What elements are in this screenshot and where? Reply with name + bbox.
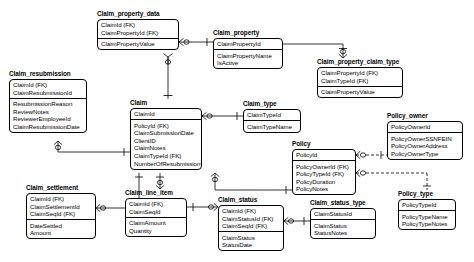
entity-box-claim_line_item: ClaimId (FK)ClaimSeqIdClaimAmountQuantit… <box>125 198 187 237</box>
field-key: PolicyOwnerId <box>391 123 459 131</box>
entity-title-claim_settlement: Claim_settlement <box>26 184 96 192</box>
entity-claim[interactable]: ClaimClaimIdPolicyId (FK)ClaimSubmission… <box>130 99 202 170</box>
key-fields-claim_line_item: ClaimId (FK)ClaimSeqId <box>126 199 186 218</box>
field-attribute: ClaimStatus <box>314 222 372 230</box>
entity-claim_settlement[interactable]: Claim_settlementClaimId (FK)ClaimSettlem… <box>26 184 96 239</box>
field-key: ClaimId (FK) <box>30 195 92 203</box>
entity-title-claim_property_data: Claim_property_data <box>97 10 179 18</box>
entity-claim_status_type[interactable]: Claim_status_typeClaimStatusIdClaimStatu… <box>310 199 376 239</box>
entity-policy[interactable]: PolicyPolicyIdPolicyOwnerId (FK)PolicyTy… <box>292 140 356 195</box>
field-attribute: ResubmissionReason <box>13 100 83 108</box>
entity-claim_property[interactable]: Claim_propertyClaimPropertyIdClaimProper… <box>213 29 283 69</box>
field-attribute: ClaimStatus <box>222 234 280 242</box>
attribute-fields-claim_status: ClaimStatusStatusDate <box>219 232 283 250</box>
attribute-fields-claim_property: ClaimPropertyNameIsActive <box>214 50 282 68</box>
field-key: ClaimResubmissionId <box>13 89 83 97</box>
attribute-fields-claim: PolicyId (FK)ClaimSubmissionDateClientID… <box>131 120 201 169</box>
field-attribute: ClaimResubmissionDate <box>13 123 83 131</box>
entity-claim_status[interactable]: Claim_statusClaimId (FK)ClaimStatusId (F… <box>218 196 284 251</box>
attribute-fields-claim_line_item: ClaimAmountQuantity <box>126 218 186 236</box>
field-key: PolicyId <box>296 151 352 159</box>
field-attribute: PolicyDuration <box>296 178 352 186</box>
entity-box-policy: PolicyIdPolicyOwnerId (FK)PolicyTypeId (… <box>292 149 356 196</box>
field-key: ClaimSeqId (FK) <box>30 210 92 218</box>
field-attribute: PolicyOwnerAddress <box>391 142 459 150</box>
attribute-fields-claim_resubmission: ResubmissionReasonReviewNotesReviewerEmp… <box>10 99 86 132</box>
entity-claim_resubmission[interactable]: Claim_resubmissionClaimId (FK)ClaimResub… <box>9 70 87 133</box>
field-attribute: ReviewNotes <box>13 108 83 116</box>
key-fields-policy_owner: PolicyOwnerId <box>388 122 462 134</box>
field-attribute: ClaimNotes <box>134 144 198 152</box>
attribute-fields-policy: PolicyOwnerId (FK)PolicyTypeId (FK)Polic… <box>293 161 355 194</box>
field-key: ClaimSettlementId <box>30 203 92 211</box>
entity-box-claim_settlement: ClaimId (FK)ClaimSettlementIdClaimSeqId … <box>26 193 96 240</box>
entity-policy_owner[interactable]: Policy_ownerPolicyOwnerIdPolicyOwnerSSNF… <box>387 112 463 160</box>
field-key: ClaimPropertyId <box>217 40 279 48</box>
field-attribute: Amount <box>30 229 92 237</box>
entity-box-policy_owner: PolicyOwnerIdPolicyOwnerSSNFEINPolicyOwn… <box>387 121 463 160</box>
entity-box-claim_status_type: ClaimStatusIdClaimStatusStatusNotes <box>310 208 376 240</box>
field-attribute: PolicyOwnerSSNFEIN <box>391 135 459 143</box>
entity-claim_line_item[interactable]: Claim_line_itemClaimId (FK)ClaimSeqIdCla… <box>125 189 187 237</box>
field-attribute: NumberOfResubmissions <box>134 160 198 168</box>
field-attribute: StatusDate <box>222 241 280 249</box>
entity-title-claim_line_item: Claim_line_item <box>125 189 187 197</box>
field-key: ClaimPropertyId (FK) <box>321 69 399 77</box>
entity-box-claim_status: ClaimId (FK)ClaimStatusId (FK)ClaimSeqId… <box>218 205 284 252</box>
field-attribute: PolicyTypeName <box>402 213 452 221</box>
attribute-fields-claim_property_claim_type: ClaimPropertyValue <box>318 87 402 98</box>
field-attribute: ClaimTypeName <box>247 123 297 131</box>
attribute-fields-claim_type: ClaimTypeName <box>244 121 300 132</box>
entity-box-claim_resubmission: ClaimId (FK)ClaimResubmissionIdResubmiss… <box>9 79 87 134</box>
field-attribute: PolicyId (FK) <box>134 122 198 130</box>
key-fields-claim_property_data: ClaimId (FK)ClaimPropertyId (FK) <box>98 20 178 39</box>
entity-claim_property_claim_type[interactable]: Claim_property_claim_typeClaimPropertyId… <box>317 58 403 98</box>
field-attribute: StatusNotes <box>314 229 372 237</box>
entity-box-claim: ClaimIdPolicyId (FK)ClaimSubmissionDateC… <box>130 108 202 170</box>
attribute-fields-claim_property_data: ClaimPropertyValue <box>98 39 178 50</box>
key-fields-claim: ClaimId <box>131 109 201 121</box>
field-key: ClaimId (FK) <box>222 207 280 215</box>
field-attribute: ReviewerEmployeeId <box>13 115 83 123</box>
entity-title-claim: Claim <box>130 99 202 107</box>
field-attribute: ClaimPropertyName <box>217 52 279 60</box>
field-key: ClaimId (FK) <box>13 81 83 89</box>
field-attribute: PolicyNotes <box>296 185 352 193</box>
entity-title-claim_status_type: Claim_status_type <box>310 199 376 207</box>
attribute-fields-claim_status_type: ClaimStatusStatusNotes <box>311 220 375 238</box>
attribute-fields-claim_settlement: DateSettledAmount <box>27 220 95 238</box>
key-fields-policy_type: PolicyTypeId <box>399 200 455 212</box>
entity-policy_type[interactable]: Policy_typePolicyTypeIdPolicyTypeNamePol… <box>398 190 456 230</box>
entity-claim_property_data[interactable]: Claim_property_dataClaimId (FK)ClaimProp… <box>97 10 179 50</box>
er-diagram-canvas: Claim_property_dataClaimId (FK)ClaimProp… <box>0 0 474 262</box>
entity-title-claim_resubmission: Claim_resubmission <box>9 70 87 78</box>
entity-box-claim_type: ClaimTypeIdClaimTypeName <box>243 109 301 133</box>
field-key: ClaimStatusId (FK) <box>222 215 280 223</box>
field-attribute: IsActive <box>217 59 279 67</box>
field-key: ClaimTypeId (FK) <box>321 77 399 85</box>
entity-title-claim_type: Claim_type <box>243 100 301 108</box>
entity-claim_type[interactable]: Claim_typeClaimTypeIdClaimTypeName <box>243 100 301 133</box>
field-attribute: ClientID <box>134 137 198 145</box>
entity-box-claim_property: ClaimPropertyIdClaimPropertyNameIsActive <box>213 38 283 70</box>
entity-title-policy_type: Policy_type <box>398 190 456 198</box>
entity-title-policy: Policy <box>292 140 356 148</box>
entity-title-claim_status: Claim_status <box>218 196 284 204</box>
field-key: ClaimSeqId (FK) <box>222 222 280 230</box>
entity-title-claim_property_claim_type: Claim_property_claim_type <box>317 58 403 66</box>
field-key: ClaimStatusId <box>314 210 372 218</box>
field-attribute: ClaimTypeId (FK) <box>134 152 198 160</box>
field-attribute: PolicyTypeId (FK) <box>296 170 352 178</box>
field-attribute: PolicyOwnerType <box>391 150 459 158</box>
key-fields-claim_resubmission: ClaimId (FK)ClaimResubmissionId <box>10 80 86 99</box>
field-attribute: ClaimSubmissionDate <box>134 129 198 137</box>
field-key: ClaimTypeId <box>247 111 297 119</box>
field-key: PolicyTypeId <box>402 201 452 209</box>
field-attribute: Quantity <box>129 227 183 235</box>
field-attribute: ClaimPropertyValue <box>101 40 175 48</box>
field-attribute: DateSettled <box>30 222 92 230</box>
field-attribute: PolicyOwnerId (FK) <box>296 163 352 171</box>
field-attribute: ClaimAmount <box>129 219 183 227</box>
field-key: ClaimSeqId <box>129 208 183 216</box>
field-key: ClaimId (FK) <box>101 21 175 29</box>
